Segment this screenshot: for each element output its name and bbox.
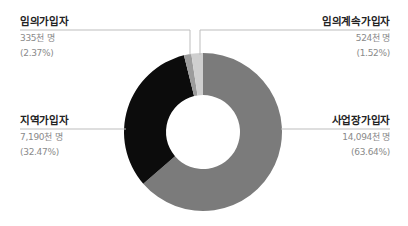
label-percent: (63.64%) xyxy=(332,145,390,160)
label-title: 임의계속가입자 xyxy=(322,14,390,28)
label-title: 사업장가입자 xyxy=(332,113,390,127)
label-title: 임의가입자 xyxy=(20,14,69,28)
label-voluntary-continued: 임의계속가입자 524천 명 (1.52%) xyxy=(322,14,390,61)
label-count: 524천 명 xyxy=(322,31,390,46)
donut-slices xyxy=(124,53,282,211)
label-percent: (2.37%) xyxy=(20,46,69,61)
label-percent: (1.52%) xyxy=(322,46,390,61)
label-workplace: 사업장가입자 14,094천 명 (63.64%) xyxy=(332,113,390,160)
label-count: 7,190천 명 xyxy=(20,130,69,145)
label-count: 335천 명 xyxy=(20,31,69,46)
label-voluntary: 임의가입자 335천 명 (2.37%) xyxy=(20,14,69,61)
label-count: 14,094천 명 xyxy=(332,130,390,145)
label-regional: 지역가입자 7,190천 명 (32.47%) xyxy=(20,113,69,160)
label-percent: (32.47%) xyxy=(20,145,69,160)
label-title: 지역가입자 xyxy=(20,113,69,127)
